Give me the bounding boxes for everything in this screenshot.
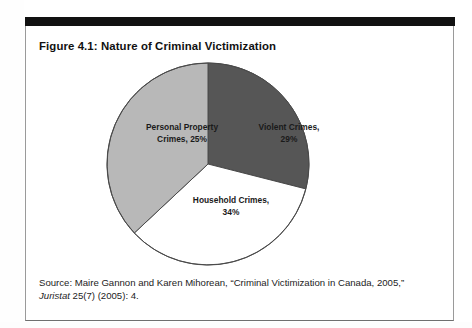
pie-label-household-line2: 34% xyxy=(223,207,240,217)
pie-label-personal-property-crimes: Personal Property Crimes, 25% xyxy=(126,122,238,145)
figure-title: Figure 4.1: Nature of Criminal Victimiza… xyxy=(39,40,276,52)
pie-label-violent-crimes: Violent Crimes, 29% xyxy=(243,122,335,145)
pie-label-household-line1: Household Crimes, xyxy=(193,195,269,205)
pie-label-household-crimes: Household Crimes, 34% xyxy=(166,195,296,218)
pie-chart: Personal Property Crimes, 25% Violent Cr… xyxy=(26,62,455,267)
figure-source-note: Source: Maire Gannon and Karen Mihorean,… xyxy=(39,276,445,302)
pie-label-violent-line2: 29% xyxy=(281,134,298,144)
pie-label-personal-property-line1: Personal Property xyxy=(146,122,218,132)
figure-top-rule xyxy=(25,17,455,26)
paper-left-margin xyxy=(0,0,24,328)
pie-label-violent-line1: Violent Crimes, xyxy=(259,122,320,132)
scanned-page: Figure 4.1: Nature of Criminal Victimiza… xyxy=(0,0,472,328)
source-line-two: Juristat 25(7) (2005): 4. xyxy=(39,289,445,302)
paper-bottom-margin xyxy=(0,322,472,328)
figure-container: Figure 4.1: Nature of Criminal Victimiza… xyxy=(25,26,454,321)
pie-chart-svg xyxy=(104,62,312,267)
source-journal-title: Juristat xyxy=(39,290,70,301)
pie-label-personal-property-line2: Crimes, 25% xyxy=(157,134,207,144)
source-citation-details: 25(7) (2005): 4. xyxy=(70,290,139,301)
source-line-one: Source: Maire Gannon and Karen Mihorean,… xyxy=(39,276,445,289)
